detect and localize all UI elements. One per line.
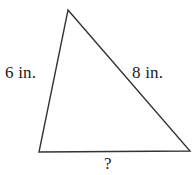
bottom-side-unknown-label: ?	[104, 155, 112, 172]
triangle-figure: 6 in. 8 in. ?	[0, 0, 192, 175]
triangle-shape	[0, 0, 192, 175]
left-side-length-label: 6 in.	[5, 64, 36, 81]
triangle-outline	[39, 10, 190, 152]
right-side-length-label: 8 in.	[132, 64, 163, 81]
